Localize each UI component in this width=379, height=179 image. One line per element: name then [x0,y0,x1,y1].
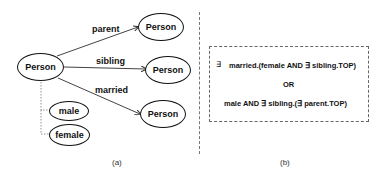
person-node-root: Person [17,53,64,81]
panel-divider [199,12,200,154]
caption-a: (a) [112,158,122,167]
male-node: male [49,101,89,121]
edge-label-parent: parent [92,24,120,34]
exists-symbol: ∃ [216,60,221,69]
person-node-parent: Person [138,13,184,41]
edge-label-married: married [95,85,128,95]
caption-b: (b) [280,158,290,167]
formula-line-1: married.(female AND ∃ sibling.TOP) [229,61,356,70]
formula-or: OR [283,80,294,89]
female-node: female [49,124,90,146]
formula-line-2: male AND ∃ sibling.(∃ parent.TOP) [224,99,347,108]
person-node-sibling: Person [145,56,191,84]
person-node-married: Person [140,100,186,128]
edge-label-sibling: sibling [96,56,125,66]
